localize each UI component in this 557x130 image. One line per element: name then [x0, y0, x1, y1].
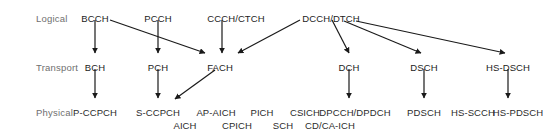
- physical-channel-cd-ca-ich: CD/CA-ICH: [305, 120, 355, 130]
- physical-channel-hs-pdsch: HS-PDSCH: [493, 107, 543, 118]
- physical-channel-sch: SCH: [273, 120, 293, 130]
- arrow-dcch-to-dch: [332, 20, 349, 53]
- physical-channel-hs-scch: HS-SCCH: [451, 107, 495, 118]
- transport-channel-fach: FACH: [207, 62, 233, 73]
- transport-channel-dch: DCH: [339, 62, 360, 73]
- physical-channel-pich: PICH: [250, 107, 273, 118]
- arrow-fach-to-s-ccpch: [175, 70, 215, 99]
- arrow-dcch-to-dsch: [344, 21, 421, 53]
- physical-channel-pdsch: PDSCH: [407, 107, 441, 118]
- physical-channel-aich: AICH: [173, 120, 196, 130]
- logical-channel-pcch: PCCH: [144, 13, 171, 24]
- physical-channel-ap-aich: AP-AICH: [196, 107, 235, 118]
- transport-channel-bch: BCH: [85, 62, 105, 73]
- physical-channel-s-ccpch: S-CCPCH: [136, 107, 180, 118]
- transport-channel-dsch: DSCH: [410, 62, 437, 73]
- arrow-dcch-to-hs-dsch: [356, 21, 505, 53]
- row-label-physical: Physical: [36, 107, 73, 118]
- row-label-transport: Transport: [36, 62, 78, 73]
- logical-channel-ccch-ctch: CCCH/CTCH: [207, 13, 264, 24]
- row-label-logical: Logical: [36, 13, 68, 24]
- transport-channel-hs-dsch: HS-DSCH: [486, 62, 530, 73]
- physical-channel-csich: CSICH: [290, 107, 320, 118]
- logical-channel-dcch-dtch: DCCH/DTCH: [302, 13, 359, 24]
- physical-channel-p-ccpch: P-CCPCH: [73, 107, 117, 118]
- physical-channel-cpich: CPICH: [222, 120, 252, 130]
- transport-channel-pch: PCH: [148, 62, 168, 73]
- arrow-dcch-to-fach: [238, 20, 300, 53]
- channel-mapping-diagram: LogicalTransportPhysical BCCHPCCHCCCH/CT…: [0, 0, 557, 130]
- logical-channel-bcch: BCCH: [81, 13, 108, 24]
- arrow-group: [95, 20, 508, 99]
- physical-channel-dpcch-dpdch: DPCCH/DPDCH: [319, 107, 390, 118]
